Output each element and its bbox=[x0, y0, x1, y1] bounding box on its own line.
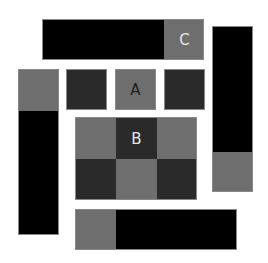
square-dark-left bbox=[66, 69, 107, 110]
bottom-bar-gray-segment bbox=[76, 210, 116, 249]
square-dark-right bbox=[164, 69, 205, 110]
left-column-black-segment bbox=[19, 111, 58, 235]
label-b: B bbox=[131, 130, 141, 148]
right-column-gray-segment bbox=[213, 152, 252, 192]
left-column-gray-segment bbox=[19, 70, 58, 111]
grid-cell-r1c1 bbox=[76, 118, 116, 159]
grid-cell-r2c3 bbox=[157, 159, 197, 200]
grid-cell-r2c1 bbox=[76, 159, 116, 200]
grid-b: B bbox=[75, 117, 197, 200]
grid-cell-r1c3 bbox=[157, 118, 197, 159]
label-c: C bbox=[179, 31, 189, 49]
bottom-bar-black-segment bbox=[116, 210, 237, 249]
top-bar: C bbox=[42, 19, 204, 60]
right-column bbox=[212, 26, 253, 192]
left-column bbox=[18, 69, 59, 235]
bottom-bar bbox=[75, 209, 237, 250]
square-a: A bbox=[115, 69, 156, 110]
label-a: A bbox=[130, 81, 140, 99]
grid-cell-r2c2 bbox=[116, 159, 157, 200]
top-bar-gray-segment: C bbox=[164, 20, 204, 59]
grid-cell-r1c2: B bbox=[116, 118, 157, 159]
right-column-black-segment bbox=[213, 27, 252, 152]
top-bar-black-segment bbox=[43, 20, 164, 59]
